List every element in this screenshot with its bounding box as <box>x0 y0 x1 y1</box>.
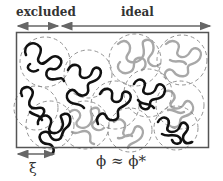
ideal-label: ideal <box>121 5 154 19</box>
blob-size-label: ξ <box>29 160 37 176</box>
excluded-label: excluded <box>16 5 76 19</box>
concentration-label: ϕ ≈ ϕ* <box>96 152 146 170</box>
solution-box <box>17 33 209 148</box>
excluded-volume-chains <box>21 43 192 154</box>
ideal-chains <box>70 40 201 148</box>
